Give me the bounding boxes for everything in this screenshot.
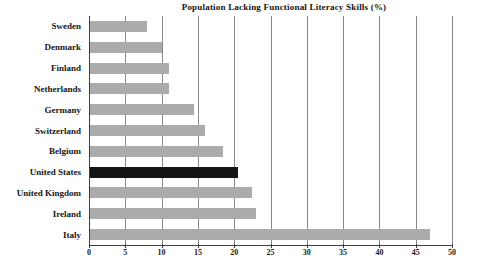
y-label-ireland: Ireland: [53, 209, 81, 219]
y-axis-category-labels: SwedenDenmarkFinlandNetherlandsGermanySw…: [0, 16, 85, 245]
bar-row: [89, 162, 452, 183]
bar-finland: [89, 63, 169, 74]
x-tick-label-20: 20: [230, 248, 238, 257]
bar-row: [89, 58, 452, 79]
x-tick-label-30: 30: [303, 248, 311, 257]
bar-germany: [89, 104, 194, 115]
bar-belgium: [89, 146, 223, 157]
x-tick-label-40: 40: [375, 248, 383, 257]
bar-row: [89, 37, 452, 58]
x-tick-label-25: 25: [267, 248, 275, 257]
bar-chart: Population Lacking Functional Literacy S…: [0, 0, 478, 275]
y-label-denmark: Denmark: [45, 42, 82, 52]
bar-row: [89, 224, 452, 245]
x-tick-label-0: 0: [87, 248, 91, 257]
x-tick-label-5: 5: [123, 248, 127, 257]
y-label-netherlands: Netherlands: [34, 84, 81, 94]
x-tick-label-10: 10: [158, 248, 166, 257]
bar-denmark: [89, 42, 162, 53]
bar-switzerland: [89, 125, 205, 136]
plot-area: [89, 16, 452, 245]
bar-sweden: [89, 21, 147, 32]
x-tick-label-45: 45: [412, 248, 420, 257]
y-label-sweden: Sweden: [51, 21, 81, 31]
bar-united-states: [89, 167, 238, 178]
chart-title: Population Lacking Functional Literacy S…: [90, 2, 478, 12]
bar-ireland: [89, 208, 256, 219]
y-label-united-kingdom: United Kingdom: [17, 188, 81, 198]
bar-row: [89, 203, 452, 224]
y-label-finland: Finland: [51, 63, 81, 73]
bars-layer: [89, 16, 452, 245]
bar-row: [89, 99, 452, 120]
y-label-italy: Italy: [63, 230, 81, 240]
bar-row: [89, 141, 452, 162]
bar-row: [89, 120, 452, 141]
x-tick-label-50: 50: [448, 248, 456, 257]
y-axis-line: [89, 16, 90, 246]
bar-row: [89, 78, 452, 99]
bar-row: [89, 183, 452, 204]
y-label-germany: Germany: [45, 105, 82, 115]
y-label-united-states: United States: [30, 167, 81, 177]
x-tick-label-15: 15: [194, 248, 202, 257]
x-axis-tick-labels: 05101520253035404550: [89, 248, 453, 264]
bar-italy: [89, 229, 430, 240]
gridline-50: [452, 16, 453, 245]
bar-netherlands: [89, 83, 169, 94]
bar-row: [89, 16, 452, 37]
x-tick-label-35: 35: [339, 248, 347, 257]
bar-united-kingdom: [89, 187, 252, 198]
y-label-belgium: Belgium: [49, 146, 81, 156]
y-label-switzerland: Switzerland: [35, 126, 81, 136]
